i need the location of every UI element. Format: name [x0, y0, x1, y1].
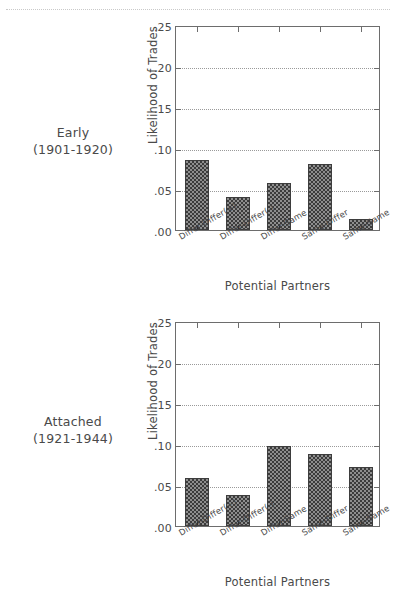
panel-caption-line1: Early	[8, 124, 138, 141]
x-axis-tick-mark	[238, 323, 239, 328]
y-axis-tick-mark-right	[374, 487, 379, 488]
gridline	[176, 68, 379, 69]
x-axis-tick-mark	[197, 323, 198, 328]
chart-early: Likelihood of Trades .00.05.10.15.20.25 …	[126, 14, 392, 302]
x-axis-tick-mark	[361, 27, 362, 32]
y-axis-tick-mark-right	[374, 150, 379, 151]
panel-caption-early: Early (1901-1920)	[8, 124, 138, 158]
x-axis-category-labels-attached: Differ-Differ(+)Differ-Differ(-)Differ-S…	[175, 529, 380, 581]
y-axis-tick-mark-right	[374, 109, 379, 110]
y-axis-tick-mark	[176, 150, 181, 151]
y-axis-tick-label: .15	[154, 399, 172, 412]
y-axis-tick-label: .10	[154, 144, 172, 157]
y-axis-tick-mark-right	[374, 364, 379, 365]
y-axis-tick-mark	[176, 364, 181, 365]
panel-caption-attached: Attached (1921-1944)	[8, 413, 138, 447]
chart-attached: Likelihood of Trades .00.05.10.15.20.25 …	[126, 310, 392, 600]
x-axis-tick-mark	[320, 27, 321, 32]
y-axis-tick-label: .20	[154, 62, 172, 75]
y-axis-tick-mark	[176, 191, 181, 192]
y-axis-tick-label: .05	[154, 481, 172, 494]
y-axis-tick-label: .15	[154, 103, 172, 116]
x-axis-category-labels-early: Differ-Differ(+)Differ-Differ(-)Differ-S…	[175, 233, 380, 285]
y-axis-tick-label: .00	[154, 226, 172, 239]
plot-area-attached: .00.05.10.15.20.25	[175, 322, 380, 527]
x-axis-title: Potential Partners	[175, 279, 380, 293]
y-axis-tick-mark-right	[374, 446, 379, 447]
y-axis-tick-label: .00	[154, 522, 172, 535]
y-axis-tick-label: .25	[154, 21, 172, 34]
x-axis-tick-mark	[279, 323, 280, 328]
figure-panel-attached: Attached (1921-1944) Likelihood of Trade…	[0, 310, 397, 600]
y-axis-tick-mark	[176, 487, 181, 488]
panel-caption-line2: (1921-1944)	[8, 430, 138, 447]
panel-caption-line1: Attached	[8, 413, 138, 430]
panel-caption-line2: (1901-1920)	[8, 141, 138, 158]
y-axis-tick-mark	[176, 446, 181, 447]
y-axis-tick-mark	[176, 109, 181, 110]
gridline	[176, 109, 379, 110]
page-top-rule	[6, 9, 390, 10]
y-axis-tick-mark-right	[374, 68, 379, 69]
x-axis-tick-mark	[238, 27, 239, 32]
plot-area-early: .00.05.10.15.20.25	[175, 26, 380, 231]
y-axis-tick-mark	[176, 405, 181, 406]
y-axis-tick-label: .05	[154, 185, 172, 198]
gridline	[176, 364, 379, 365]
y-axis-tick-mark	[176, 68, 181, 69]
x-axis-title: Potential Partners	[175, 575, 380, 589]
gridline	[176, 405, 379, 406]
figure-panel-early: Early (1901-1920) Likelihood of Trades .…	[0, 14, 397, 302]
x-axis-tick-mark	[279, 27, 280, 32]
y-axis-tick-mark-right	[374, 191, 379, 192]
y-axis-tick-mark-right	[374, 405, 379, 406]
gridline	[176, 150, 379, 151]
y-axis-tick-label: .10	[154, 440, 172, 453]
y-axis-tick-label: .20	[154, 358, 172, 371]
y-axis-tick-label: .25	[154, 317, 172, 330]
x-axis-tick-mark	[361, 323, 362, 328]
x-axis-tick-mark	[197, 27, 198, 32]
x-axis-tick-mark	[320, 323, 321, 328]
